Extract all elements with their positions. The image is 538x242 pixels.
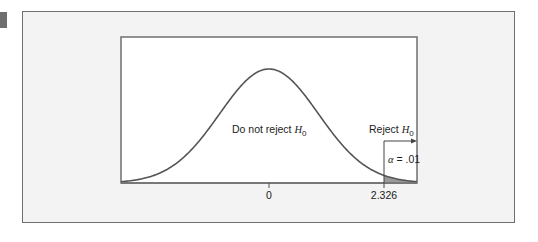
tick-label-zero: 0: [266, 189, 272, 201]
tick-label-critical: 2.326: [371, 189, 397, 201]
label-alpha: α = .01: [388, 153, 420, 165]
plot-area: [121, 37, 417, 183]
normal-distribution-chart: 0 2.326 Do not reject H0 Reject H0 α = .…: [0, 0, 538, 242]
